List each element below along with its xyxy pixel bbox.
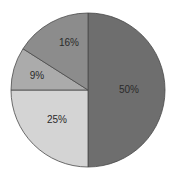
pie-slice-25pct bbox=[11, 90, 88, 167]
pie-chart: 50% 25% 9% 16% bbox=[0, 0, 174, 173]
pie-slices bbox=[11, 13, 165, 167]
slice-label-9: 9% bbox=[30, 70, 45, 81]
slice-label-25: 25% bbox=[47, 114, 67, 125]
slice-label-16: 16% bbox=[59, 37, 79, 48]
slice-label-50: 50% bbox=[119, 84, 139, 95]
